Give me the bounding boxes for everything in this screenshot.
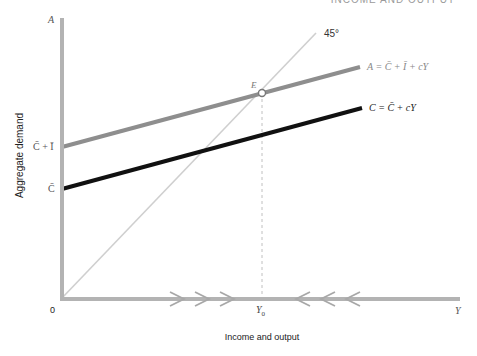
equilibrium-point [259, 90, 266, 97]
x-axis-symbol: Y [455, 305, 461, 316]
diagram-canvas [0, 0, 477, 356]
x-axis-label: Income and output [200, 332, 324, 342]
line-45-label: 45° [324, 28, 339, 39]
x-tick-y0: Y0 [256, 304, 265, 318]
aggregate-demand-line [62, 67, 360, 147]
y-tick-c-plus-i: C̄ + Ī [33, 141, 54, 152]
line-45-degree [62, 33, 316, 298]
equilibrium-label: E [251, 80, 257, 90]
consumption-label: C = C̄ + cY [369, 102, 416, 113]
aggregate-demand-label: A = C̄ + Ī + cY [367, 61, 428, 72]
consumption-line [62, 108, 362, 189]
y-axis-symbol: A [48, 14, 54, 25]
y-tick-c: C̄ [48, 183, 55, 194]
x-tick-y0-sub: 0 [262, 310, 266, 318]
origin-label: 0 [50, 305, 55, 315]
y-axis-label: Aggregate demand [14, 101, 25, 211]
